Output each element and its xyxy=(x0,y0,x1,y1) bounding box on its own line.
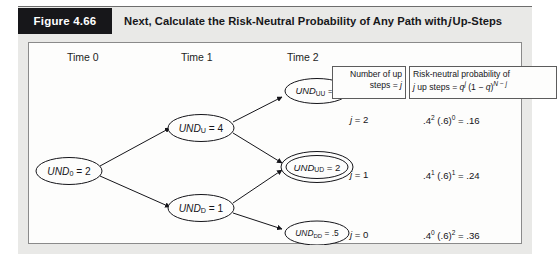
row-0-prob-result: = .16 xyxy=(455,115,479,126)
row-1-prob-result: = .24 xyxy=(455,170,479,181)
figure-container: Figure 4.66 Next, Calculate the Risk-Neu… xyxy=(18,6,532,254)
row-2-j-number: = 0 xyxy=(352,229,368,240)
figure-title-part2: Up-Steps xyxy=(453,15,503,27)
row-1-j-value: j = 1 xyxy=(350,169,368,180)
row-0-j-number: = 2 xyxy=(352,114,368,125)
column-header-risk-neutral-probability: Risk-neutral probability of j up steps =… xyxy=(409,66,557,99)
edge-undd-undud xyxy=(233,170,282,203)
column-header-j-variable: j xyxy=(400,80,402,90)
column-header-j-line1: Number of up xyxy=(336,69,402,80)
tree-node-und0[interactable]: UND0 = 2 xyxy=(36,158,102,185)
edge-undu-undud xyxy=(233,133,282,163)
row-0-prob-base2: (.6) xyxy=(435,115,452,126)
row-1-probability: .41 (.6)1 = .24 xyxy=(423,169,480,181)
row-2-probability: .40 (.6)2 = .36 xyxy=(423,229,480,241)
row-2-prob-result: = .36 xyxy=(455,230,479,241)
figure-title-band: Figure 4.66 Next, Calculate the Risk-Neu… xyxy=(18,6,532,35)
tree-node-undu[interactable]: UNDU = 4 xyxy=(168,115,234,142)
edge-undd-unddd xyxy=(233,213,282,229)
figure-title-part1: Next, Calculate the Risk-Neutral Probabi… xyxy=(124,15,447,27)
row-0-j-value: j = 2 xyxy=(350,114,368,125)
row-1-prob-base1: .4 xyxy=(423,170,431,181)
row-1-j-number: = 1 xyxy=(352,169,368,180)
figure-number-tag: Figure 4.66 xyxy=(18,8,112,34)
row-2-prob-base1: .4 xyxy=(423,230,431,241)
tree-node-undud[interactable]: UNDUD = 2 xyxy=(281,152,353,183)
formula-exponent-j: j xyxy=(506,80,507,87)
row-1-prob-base2: (.6) xyxy=(435,170,452,181)
column-header-prob-line1: Risk-neutral probability of xyxy=(413,69,553,80)
row-2-j-value: j = 0 xyxy=(350,229,368,240)
column-header-number-of-up-steps: Number of up steps = j xyxy=(332,66,406,99)
column-header-j-line2: steps = j xyxy=(336,80,402,91)
formula-mid-text: up steps = xyxy=(415,82,460,92)
column-header-j-line2-text: steps = xyxy=(370,80,400,90)
edge-undu-unduu xyxy=(233,97,282,122)
column-header-prob-formula: j up steps = qj (1 − q)N − j xyxy=(413,80,553,93)
tree-node-und0-label: UND0 = 2 xyxy=(47,165,91,178)
figure-number-label: Figure 4.66 xyxy=(34,15,97,27)
row-0-probability: .42 (.6)0 = .16 xyxy=(423,114,480,126)
edge-und0-undu xyxy=(100,128,170,166)
row-0-prob-base1: .4 xyxy=(423,115,431,126)
row-2-prob-base2: (.6) xyxy=(435,230,452,241)
tree-node-unddd[interactable]: UNDDD = .5 xyxy=(285,221,349,245)
formula-exponent-minus: − xyxy=(498,80,506,87)
figure-title: Next, Calculate the Risk-Neutral Probabi… xyxy=(124,8,502,34)
edge-und0-undd xyxy=(100,176,170,207)
tree-node-undd[interactable]: UNDD = 1 xyxy=(168,195,234,222)
formula-open-paren: (1 − xyxy=(466,82,486,92)
